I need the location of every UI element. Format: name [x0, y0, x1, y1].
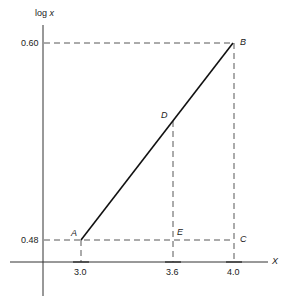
y-axis-label: log x	[35, 9, 54, 18]
y-axis-label-var: x	[50, 8, 55, 18]
point-label-E: E	[177, 228, 183, 237]
y-axis-label-prefix: log	[35, 8, 47, 18]
point-label-B: B	[240, 38, 246, 47]
y-tick-label-0.60: 0.60	[21, 39, 39, 48]
x-tick-label-4.0: 4.0	[227, 268, 240, 277]
line-AB	[81, 43, 233, 240]
x-tick-label-3.0: 3.0	[74, 268, 87, 277]
point-label-D: D	[161, 111, 168, 120]
log-interpolation-diagram: log x 0.60 0.48 3.0 3.6 4.0 X A B C D E	[0, 0, 289, 304]
x-tick-label-3.6: 3.6	[166, 268, 179, 277]
y-tick-label-0.48: 0.48	[21, 236, 39, 245]
x-axis-label: X	[272, 257, 278, 266]
point-label-A: A	[71, 229, 77, 238]
point-label-C: C	[240, 235, 247, 244]
